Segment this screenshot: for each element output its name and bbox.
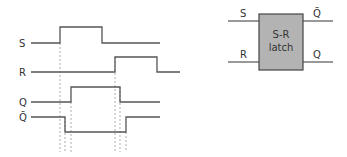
sr-latch-block: S-R latch S R Q̄ Q bbox=[228, 7, 333, 70]
latch-title-line2: latch bbox=[269, 42, 294, 53]
signal-label-s: S bbox=[19, 38, 25, 49]
waveform-r bbox=[31, 57, 180, 72]
signal-label-r: R bbox=[19, 67, 26, 78]
latch-input-s-label: S bbox=[240, 8, 246, 19]
latch-output-q-label: Q bbox=[313, 49, 321, 60]
signal-label-q: Q bbox=[19, 97, 27, 108]
timing-guides bbox=[60, 43, 126, 152]
latch-output-qbar-label: Q̄ bbox=[313, 7, 321, 19]
waveform-qbar bbox=[31, 117, 160, 132]
signal-label-qbar: Q̄ bbox=[19, 111, 27, 123]
waveform-s bbox=[31, 27, 160, 43]
latch-title-line1: S-R bbox=[273, 29, 290, 40]
latch-input-r-label: R bbox=[240, 49, 247, 60]
sr-latch-diagram: S R Q Q̄ S-R latch S R Q̄ Q bbox=[0, 0, 347, 157]
waveform-q bbox=[31, 87, 160, 102]
